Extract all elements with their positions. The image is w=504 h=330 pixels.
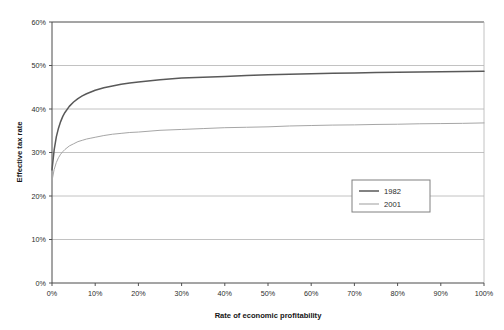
y-tick-label: 50% bbox=[32, 61, 47, 70]
x-tick-label: 10% bbox=[88, 289, 103, 298]
x-tick-label: 60% bbox=[304, 289, 319, 298]
x-tick-label: 30% bbox=[174, 289, 189, 298]
y-tick-label: 40% bbox=[32, 105, 47, 114]
x-tick-label: 20% bbox=[131, 289, 146, 298]
y-tick-label: 10% bbox=[32, 235, 47, 244]
x-tick-label: 40% bbox=[218, 289, 233, 298]
x-tick-label: 50% bbox=[261, 289, 276, 298]
chart-container: 0%10%20%30%40%50%60% 0%10%20%30%40%50%60… bbox=[0, 0, 504, 330]
x-tick-label: 0% bbox=[47, 289, 58, 298]
y-tick-label: 20% bbox=[32, 192, 47, 201]
chart-canvas: 0%10%20%30%40%50%60% 0%10%20%30%40%50%60… bbox=[0, 0, 504, 330]
chart-legend: 1982 2001 bbox=[352, 180, 430, 212]
legend-label-1982: 1982 bbox=[384, 187, 401, 196]
x-tick-label: 70% bbox=[347, 289, 362, 298]
x-tick-label: 80% bbox=[390, 289, 405, 298]
y-tick-label: 30% bbox=[32, 148, 47, 157]
y-axis-title: Effective tax rate bbox=[15, 122, 24, 183]
y-tick-label: 60% bbox=[32, 18, 47, 27]
y-tick-label: 0% bbox=[36, 279, 47, 288]
x-tick-label: 90% bbox=[434, 289, 449, 298]
x-axis-title: Rate of economic profitability bbox=[215, 311, 323, 320]
legend-label-2001: 2001 bbox=[384, 200, 401, 209]
x-tick-label: 100% bbox=[475, 289, 494, 298]
